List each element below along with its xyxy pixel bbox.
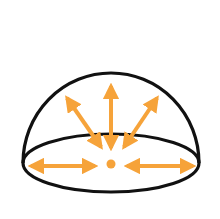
center-point-icon [107,160,116,169]
arrows-group [31,86,193,166]
hemisphere-svg [0,0,220,219]
hemisphere-diagram [0,0,220,219]
arrow-up-left-icon [67,98,101,147]
arrow-up-right-icon [124,98,157,147]
